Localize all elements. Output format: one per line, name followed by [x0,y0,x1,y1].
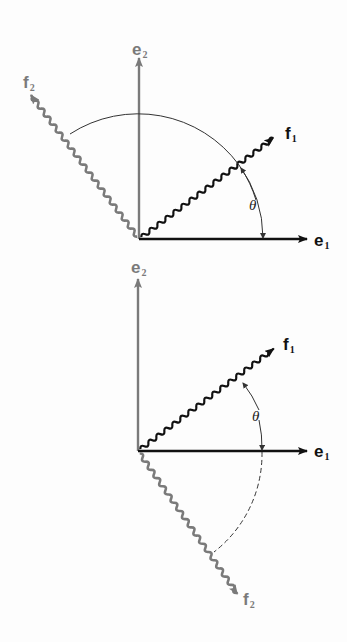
top-rotation-arc [70,114,239,165]
top-f1-vector [140,137,274,239]
bottom-f1-vector [139,347,275,451]
top-f1-label: f1 [285,124,297,144]
top-diagram: e2 f2 f1 e1 θ [23,40,329,251]
top-theta-label: θ [249,197,257,213]
bottom-theta-arc [259,420,262,450]
top-e1-label: e1 [314,231,329,251]
bottom-theta-arc-head [243,383,259,410]
top-theta-arc-head [241,168,256,200]
bottom-f2-label: f2 [243,590,255,610]
top-f2-vector [29,94,138,238]
bottom-diagram: e2 f1 e1 f2 θ [131,258,329,610]
bottom-f2-vector [138,452,239,595]
top-e2-label: e2 [132,40,147,60]
bottom-e2-label: e2 [131,258,146,278]
bottom-f1-label: f1 [283,335,295,355]
bottom-theta-label: θ [252,408,260,424]
bottom-reflection-arc-dashed [214,452,262,552]
basis-rotation-diagram: e2 f2 f1 e1 θ e2 f1 e1 f2 θ [0,0,347,642]
top-f2-label: f2 [23,73,35,93]
bottom-e1-label: e1 [314,442,329,462]
